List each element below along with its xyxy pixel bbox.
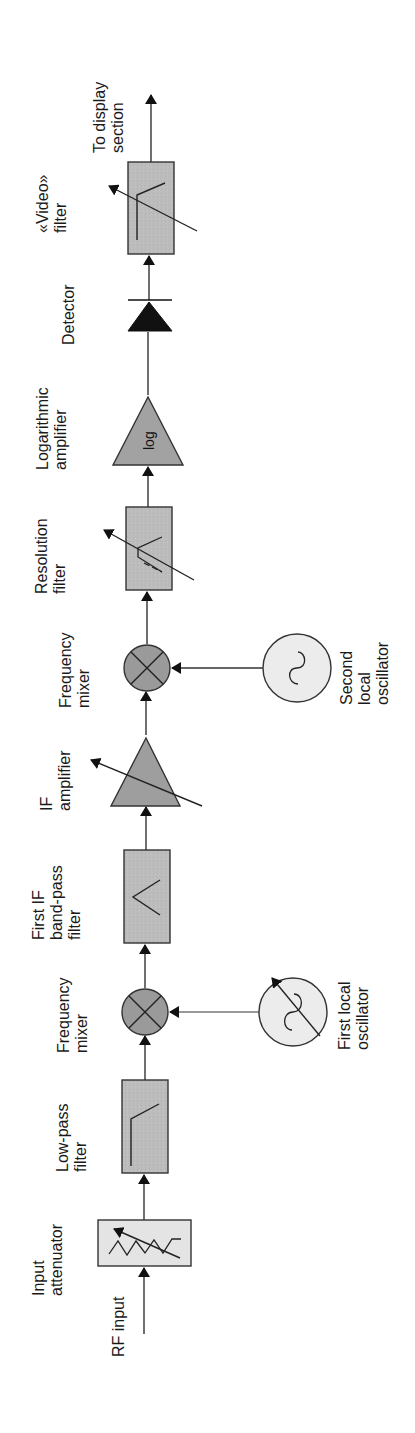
low-pass-filter-block [122, 1080, 168, 1173]
low-pass-filter-label: Low-pass filter [54, 1104, 90, 1172]
if-amplifier-label: IF amplifier [38, 751, 74, 811]
rf-input-label: RF input [110, 1297, 128, 1357]
second-local-oscillator [263, 634, 331, 702]
first-if-band-pass-filter-block [124, 850, 170, 943]
second-local-oscillator-label: Second local oscillator [338, 642, 392, 705]
to-display-section-label: To display section [91, 82, 127, 153]
first-if-band-pass-filter-label: First IF band-pass filter [30, 865, 84, 940]
first-local-oscillator-label: First local oscillator [336, 982, 372, 1050]
video-filter-block [109, 162, 197, 254]
logarithmic-amplifier-block: log [113, 397, 183, 465]
logarithmic-amplifier-label: Logarithmic amplifier [34, 387, 70, 470]
resolution-filter-block [104, 507, 194, 590]
spectrum-analyzer-block-diagram: log RF input Input attenuator Low-pass f… [0, 0, 415, 1433]
frequency-mixer-2 [124, 645, 170, 691]
frequency-mixer-2-label: Frequency mixer [57, 632, 93, 708]
detector-diode [128, 300, 172, 331]
input-attenuator-label: Input attenuator [30, 1224, 66, 1296]
video-filter-label: «Video» filter [34, 175, 70, 233]
log-label: log [141, 431, 157, 450]
frequency-mixer-1 [122, 989, 168, 1035]
frequency-mixer-1-label: Frequency mixer [55, 977, 91, 1053]
resolution-filter-label: Resolution filter [33, 518, 69, 594]
detector-label: Detector [60, 285, 78, 345]
input-attenuator-block [98, 1220, 191, 1266]
if-amplifier-block [91, 738, 202, 806]
first-local-oscillator [259, 978, 327, 1046]
